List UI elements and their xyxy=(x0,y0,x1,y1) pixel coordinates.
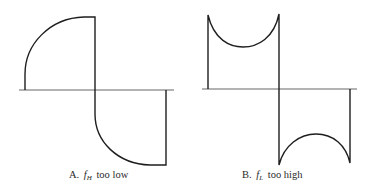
panel-a-caption: A. fH too low xyxy=(69,169,129,182)
panel-b: B. fL too high xyxy=(202,14,357,182)
panel-b-caption: B. fL too high xyxy=(242,169,303,182)
waveform-diagram: A. fH too low B. fL too high xyxy=(0,0,374,192)
panel-b-waveform xyxy=(208,14,350,165)
panel-a-waveform xyxy=(25,17,166,165)
panel-a: A. fH too low xyxy=(19,17,174,182)
